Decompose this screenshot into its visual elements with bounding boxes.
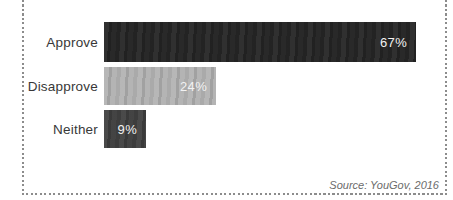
category-label: Approve [0, 35, 98, 50]
dashed-border-bottom [22, 193, 447, 195]
bar-row: Approve67% [0, 22, 416, 62]
bar-chart: Approve67%Disapprove24%Neither9% [0, 0, 453, 160]
chart-panel: Approve67%Disapprove24%Neither9% Source:… [0, 0, 453, 200]
bar-row: Disapprove24% [0, 67, 216, 105]
bar-approve: 67% [104, 22, 416, 62]
value-label: 24% [180, 79, 216, 94]
bar-row: Neither9% [0, 110, 146, 148]
category-label: Neither [0, 122, 98, 137]
source-caption: Source: YouGov, 2016 [329, 179, 439, 191]
value-label: 9% [118, 122, 146, 137]
value-label: 67% [380, 35, 416, 50]
bar-disapprove: 24% [104, 67, 216, 105]
bar-neither: 9% [104, 110, 146, 148]
category-label: Disapprove [0, 79, 98, 94]
